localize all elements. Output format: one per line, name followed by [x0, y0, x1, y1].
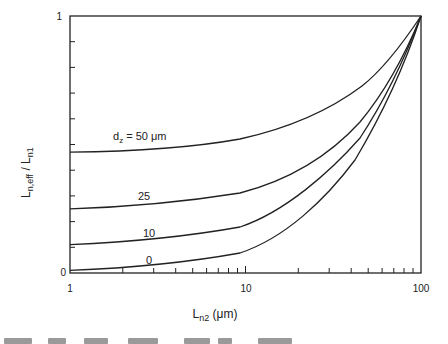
curve-dz-25 [70, 16, 421, 209]
chart: 1 0 1 10 100 dz = 50 μm 25 10 0 Ln,eff /… [0, 0, 448, 344]
curve-label-50: dz = 50 μm [113, 130, 166, 145]
y-tick-label-0: 0 [60, 267, 66, 278]
caption-fragment [48, 338, 66, 344]
curve-label-0: 0 [146, 254, 152, 266]
y-tick-label-1: 1 [56, 11, 62, 22]
x-axis-label: Ln2 (μm) [193, 307, 238, 323]
caption-fragment [258, 338, 292, 344]
x-axis-ticks [123, 266, 413, 273]
caption-fragment [128, 338, 158, 344]
x-tick-label-1: 1 [67, 283, 73, 294]
figure-caption-cropped [0, 336, 300, 344]
curve-label-25: 25 [138, 190, 150, 202]
x-tick-label-100: 100 [413, 283, 430, 294]
x-tick-label-10: 10 [240, 283, 252, 294]
curve-label-10: 10 [143, 227, 155, 239]
y-axis-label: Ln,eff / Ln1 [19, 147, 35, 198]
caption-fragment [218, 338, 232, 344]
caption-fragment [184, 338, 210, 344]
y-axis-ticks [70, 42, 75, 248]
caption-fragment [84, 338, 108, 344]
caption-fragment [4, 338, 32, 344]
